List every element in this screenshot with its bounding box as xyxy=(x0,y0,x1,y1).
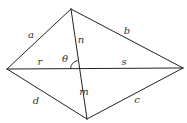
label-m: m xyxy=(79,87,88,97)
quadrilateral-diagram xyxy=(0,0,187,123)
label-r: r xyxy=(38,57,43,67)
label-n: n xyxy=(78,35,84,45)
label-b: b xyxy=(124,26,130,36)
angle-theta-arc xyxy=(71,61,78,69)
label-d: d xyxy=(33,96,39,106)
label-theta: θ xyxy=(62,54,68,64)
side-d xyxy=(7,69,87,119)
side-b xyxy=(71,9,183,68)
diagonal-vertical xyxy=(71,9,87,119)
diagonal-horizontal xyxy=(7,68,183,69)
label-c: c xyxy=(134,95,140,105)
label-s: s xyxy=(121,57,126,67)
label-a: a xyxy=(28,30,34,40)
